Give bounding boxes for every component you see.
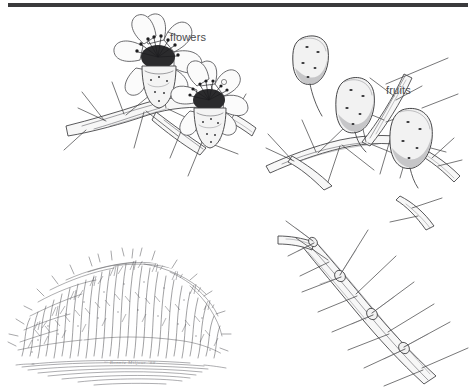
illustration-plate: flowers fruits © Bonnie Miljour ’88: [0, 0, 474, 388]
top-divider-rule: [8, 3, 468, 7]
thorny-stem-detail-panel: [272, 196, 474, 388]
label-flowers: flowers: [170, 31, 206, 43]
detail-upper-fragment: [390, 196, 442, 230]
shrub-foliage-mass: [18, 260, 222, 358]
artist-signature: © Bonnie Miljour ’88: [104, 360, 156, 365]
fruit-lower: [390, 108, 432, 188]
flowering-branch-panel: [60, 8, 260, 198]
fruit-upper: [293, 36, 329, 116]
label-fruits: fruits: [386, 84, 411, 96]
fruiting-branch-panel: [262, 16, 474, 206]
flower-hypanthium-cup: [194, 108, 226, 148]
